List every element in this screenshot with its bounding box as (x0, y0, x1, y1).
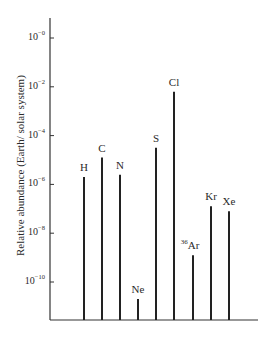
y-tick-label: 10−6 (5, 177, 45, 188)
y-tick-label: 10−10 (5, 275, 45, 286)
element-label-ne: Ne (123, 283, 153, 295)
y-tick-label: 10−0 (5, 31, 45, 42)
abundance-chart: Relative abundance (Earth/ solar system)… (0, 0, 261, 344)
element-label-cl: Cl (159, 76, 189, 88)
element-label-xe: Xe (214, 195, 244, 207)
element-label-n: N (105, 159, 135, 171)
element-label-c: C (87, 142, 117, 154)
y-tick-label: 10−8 (5, 226, 45, 237)
element-label-h: H (69, 161, 99, 173)
bars (84, 92, 229, 320)
y-tick-label: 10−2 (5, 80, 45, 91)
y-tick-label: 10−4 (5, 129, 45, 140)
element-label-s: S (141, 132, 171, 144)
element-label-36ar: 36Ar (175, 239, 205, 251)
